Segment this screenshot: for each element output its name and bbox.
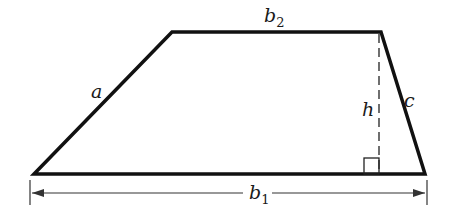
b1-dimension [30,180,427,205]
arrow-left-icon [32,189,44,197]
label-b2: b2 [264,4,284,30]
arrow-right-icon [413,189,425,197]
label-b1: b1 [249,181,269,207]
right-angle-marker [364,158,379,174]
label-a: a [91,80,102,102]
trapezoid-diagram: b2 a h c b1 [0,0,455,220]
label-c: c [404,89,415,111]
label-h: h [362,98,374,120]
